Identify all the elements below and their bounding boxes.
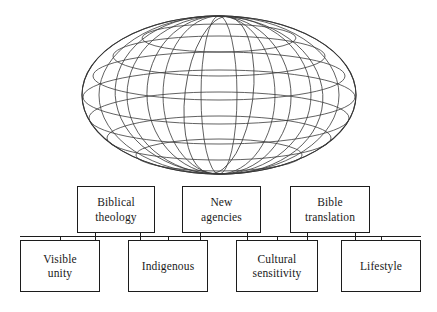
box-visible-unity[interactable]: Visible unity	[20, 240, 100, 292]
box-cultural-sensitivity[interactable]: Cultural sensitivity	[236, 240, 318, 292]
box-bible-translation-label: Bible translation	[302, 195, 358, 223]
wireframe-globe	[80, 14, 358, 176]
box-biblical-theology-label: Biblical theology	[92, 195, 139, 223]
box-biblical-theology[interactable]: Biblical theology	[77, 186, 155, 233]
box-indigenous[interactable]: Indigenous	[128, 240, 208, 292]
box-visible-unity-label: Visible unity	[40, 252, 80, 280]
diagram-canvas: Biblical theology New agencies Bible tra…	[0, 0, 437, 312]
box-indigenous-label: Indigenous	[139, 259, 198, 273]
box-lifestyle[interactable]: Lifestyle	[341, 240, 421, 292]
box-cultural-sensitivity-label: Cultural sensitivity	[250, 252, 305, 280]
box-bible-translation[interactable]: Bible translation	[290, 186, 370, 233]
box-lifestyle-label: Lifestyle	[357, 259, 405, 273]
box-new-agencies-label: New agencies	[198, 195, 245, 223]
box-new-agencies[interactable]: New agencies	[182, 186, 261, 233]
